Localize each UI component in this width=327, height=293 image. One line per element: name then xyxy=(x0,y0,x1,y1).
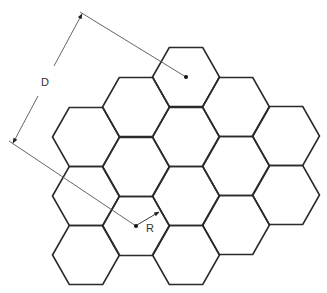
hexagon-cell xyxy=(203,196,270,255)
hexagon-cell xyxy=(203,137,270,196)
cell-center-dot-top xyxy=(184,75,188,79)
hexagon-cell xyxy=(153,167,220,226)
distance-label: D xyxy=(41,76,49,88)
hexagon-cell xyxy=(253,166,320,225)
hexagon-cells xyxy=(53,48,320,285)
hexagon-cell xyxy=(203,78,270,137)
hexagon-cell xyxy=(103,138,170,197)
hexagon-cell xyxy=(153,108,220,167)
hexagon-cell xyxy=(53,167,120,226)
distance-dimension-line-upper xyxy=(54,14,82,66)
extension-line-top xyxy=(80,12,186,77)
hexagon-cell xyxy=(253,107,320,166)
distance-dimension-line-lower xyxy=(13,96,38,143)
hexagon-cell xyxy=(103,78,170,137)
hexagon-cell xyxy=(53,226,120,285)
radius-label: R xyxy=(146,222,154,234)
hex-grid-diagram: D R xyxy=(0,0,327,293)
hexagon-cell xyxy=(153,226,220,285)
extension-line-bottom xyxy=(9,141,136,226)
hexagon-cell xyxy=(53,108,120,167)
